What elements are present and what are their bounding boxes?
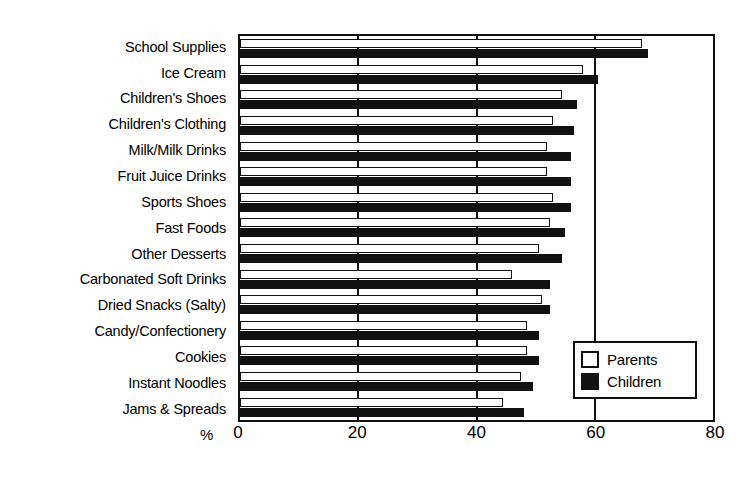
- legend-label-children: Children: [607, 374, 661, 389]
- x-tick-label: 20: [348, 424, 367, 441]
- bar-chart: School Supplies Ice Cream Children's Sho…: [0, 0, 740, 482]
- legend-item-children: Children: [581, 370, 688, 392]
- category-label: Instant Noodles: [0, 370, 232, 396]
- bar-children: [240, 203, 571, 212]
- bar-children: [240, 177, 571, 186]
- bar-children: [240, 254, 562, 263]
- category-label: Ice Cream: [0, 60, 232, 86]
- bar-parents: [240, 270, 512, 279]
- value-axis-labels: 020406080: [238, 424, 715, 454]
- category-label: Dried Snacks (Salty): [0, 293, 232, 319]
- bar-children: [240, 228, 565, 237]
- bar-parents: [240, 244, 539, 253]
- bar-children: [240, 126, 574, 135]
- category-label: Jams & Spreads: [0, 396, 232, 422]
- bar-group: [240, 62, 713, 88]
- bar-group: [240, 215, 713, 241]
- bar-parents: [240, 218, 550, 227]
- category-label: Milk/Milk Drinks: [0, 137, 232, 163]
- bar-parents: [240, 39, 642, 48]
- bar-children: [240, 331, 539, 340]
- bar-parents: [240, 142, 547, 151]
- bar-children: [240, 356, 539, 365]
- bar-group: [240, 87, 713, 113]
- category-label: Sports Shoes: [0, 189, 232, 215]
- legend-swatch-children-icon: [581, 373, 599, 390]
- bar-group: [240, 241, 713, 267]
- bar-parents: [240, 398, 503, 407]
- legend: Parents Children: [573, 341, 697, 399]
- legend-label-parents: Parents: [607, 352, 657, 367]
- legend-swatch-parents-icon: [581, 351, 599, 368]
- x-tick-label: 60: [586, 424, 605, 441]
- bar-parents: [240, 193, 553, 202]
- bar-children: [240, 49, 648, 58]
- category-label: School Supplies: [0, 34, 232, 60]
- bar-children: [240, 152, 571, 161]
- bar-parents: [240, 65, 583, 74]
- category-label: Children's Shoes: [0, 86, 232, 112]
- bar-children: [240, 280, 550, 289]
- bar-group: [240, 113, 713, 139]
- bar-children: [240, 382, 533, 391]
- bar-group: [240, 190, 713, 216]
- category-label: Carbonated Soft Drinks: [0, 267, 232, 293]
- bar-group: [240, 318, 713, 344]
- bar-parents: [240, 295, 542, 304]
- bar-parents: [240, 116, 553, 125]
- bar-group: [240, 164, 713, 190]
- bar-children: [240, 100, 577, 109]
- category-label: Fruit Juice Drinks: [0, 163, 232, 189]
- bar-group: [240, 266, 713, 292]
- bar-group: [240, 138, 713, 164]
- bar-children: [240, 408, 524, 417]
- category-axis-labels: School Supplies Ice Cream Children's Sho…: [0, 34, 232, 422]
- category-label: Fast Foods: [0, 215, 232, 241]
- category-label: Candy/Confectionery: [0, 318, 232, 344]
- x-tick-label: 40: [467, 424, 486, 441]
- bar-parents: [240, 372, 521, 381]
- bar-group: [240, 36, 713, 62]
- category-label: Other Desserts: [0, 241, 232, 267]
- x-tick-label: 0: [233, 424, 242, 441]
- bar-children: [240, 305, 550, 314]
- bar-parents: [240, 346, 527, 355]
- bar-children: [240, 75, 598, 84]
- bar-parents: [240, 321, 527, 330]
- legend-item-parents: Parents: [581, 348, 688, 370]
- bar-parents: [240, 167, 547, 176]
- bar-group: [240, 292, 713, 318]
- axis-unit-label: %: [200, 427, 213, 442]
- category-label: Children's Clothing: [0, 112, 232, 138]
- category-label: Cookies: [0, 344, 232, 370]
- bar-parents: [240, 90, 562, 99]
- x-tick-label: 80: [706, 424, 725, 441]
